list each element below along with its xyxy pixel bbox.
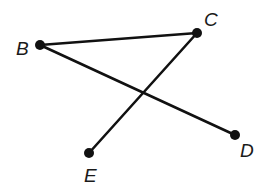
label-b: B: [16, 38, 29, 59]
point-e: [84, 148, 94, 158]
label-e: E: [84, 165, 97, 185]
geometry-diagram: B C D E: [0, 0, 269, 185]
segment-ce: [89, 33, 197, 153]
point-d: [230, 130, 240, 140]
label-d: D: [240, 140, 254, 161]
point-b: [35, 40, 45, 50]
segment-bd: [40, 45, 235, 135]
label-c: C: [204, 9, 218, 30]
point-c: [192, 28, 202, 38]
segment-bc: [40, 33, 197, 45]
